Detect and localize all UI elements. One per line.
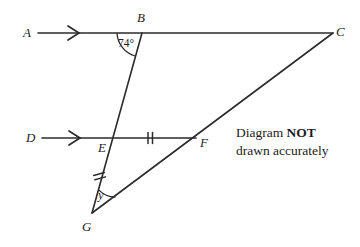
point-label-B: B [137,11,145,24]
line-GC [92,33,333,213]
angle-label-y: y [98,188,104,201]
note-line-1-strong: NOT [287,125,316,140]
point-label-F: F [200,136,208,149]
point-label-D: D [26,131,35,144]
note-line-1: Diagram NOT [236,124,329,142]
line-BG [92,33,142,213]
point-label-A: A [23,26,31,39]
point-label-E: E [98,141,106,154]
note-line-2: drawn accurately [236,142,329,160]
note-line-1-prefix: Diagram [236,125,287,140]
point-label-C: C [336,25,345,38]
point-label-G: G [82,220,91,233]
diagram-note: Diagram NOT drawn accurately [236,124,329,160]
angle-label-74: 74° [118,38,134,50]
diagram-canvas: A B C D E F G 74° y Diagram NOT drawn ac… [0,0,360,247]
